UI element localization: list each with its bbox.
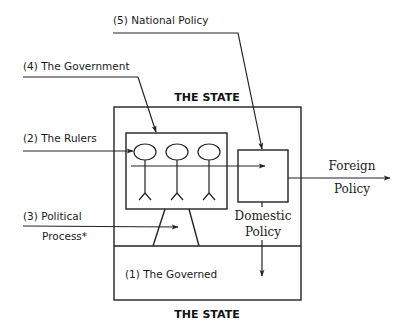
national-policy-label: (5) National Policy xyxy=(113,14,209,26)
foreign-policy-label-line1: Foreign xyxy=(329,159,376,173)
government-arrow xyxy=(23,77,156,132)
state-policy-diagram: THE STATE THE STATE (5) National Policy … xyxy=(0,0,408,329)
ruler-figure-2 xyxy=(166,144,188,200)
government-label: (4) The Government xyxy=(23,60,130,72)
state-title-top: THE STATE xyxy=(174,91,239,104)
domestic-policy-label-line2: Policy xyxy=(245,225,281,239)
foreign-policy-label-line2: Policy xyxy=(334,182,370,196)
ruler-figure-3 xyxy=(198,144,220,200)
state-title-bottom: THE STATE xyxy=(174,308,239,321)
political-process-label-line1: (3) Political xyxy=(23,210,82,222)
ruler-figure-1 xyxy=(134,144,156,200)
policy-box xyxy=(238,150,288,202)
governed-label: (1) The Governed xyxy=(125,268,217,280)
political-process-label-line2: Process* xyxy=(42,230,87,242)
political-channel-right xyxy=(189,209,199,246)
rulers-label: (2) The Rulers xyxy=(23,132,97,144)
political-process-arrow xyxy=(23,226,178,227)
domestic-policy-label-line1: Domestic xyxy=(235,209,292,223)
